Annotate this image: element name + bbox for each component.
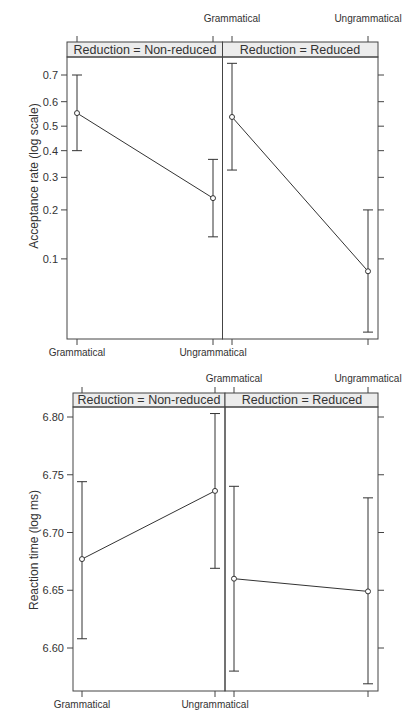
y-tick-label: 6.70 [43,527,64,539]
panel-frame [67,57,223,339]
data-point [366,269,371,274]
x-tick-label: Ungrammatical [334,373,401,384]
y-tick-label: 0.2 [43,204,58,216]
y-tick-label: 0.7 [43,69,58,81]
series-line [77,113,213,198]
x-tick-label: Grammatical [206,373,263,384]
y-axis-label: Reaction time (log ms) [27,490,41,610]
panel-frame [225,407,378,691]
y-tick-label: 0.5 [43,120,58,132]
x-tick-label: Ungrammatical [334,13,401,24]
y-tick-label: 6.75 [43,469,64,481]
x-tick-label: Grammatical [54,699,111,710]
x-tick-label: Grammatical [49,347,106,358]
data-point [230,114,235,119]
panel-frame [73,407,225,691]
data-point [366,589,371,594]
y-axis-label: Acceptance rate (log scale) [27,103,41,248]
figure: Acceptance rate (log scale) Reduction = … [0,0,419,728]
data-point [75,111,80,116]
y-tick-label: 6.60 [43,642,64,654]
series-line [232,117,368,271]
panel-strip-label: Reduction = Reduced [242,393,363,407]
y-tick-label: 6.80 [43,411,64,423]
panel-strip-label: Reduction = Non-reduced [78,393,221,407]
x-tick-label: Grammatical [204,13,261,24]
y-tick-label: 0.1 [43,253,58,265]
acceptance-rate-chart: Acceptance rate (log scale) Reduction = … [27,13,402,358]
series-line [82,491,215,559]
data-point [213,488,218,493]
x-tick-label: Ungrammatical [181,699,248,710]
series-line [234,579,368,592]
y-tick-label: 6.65 [43,584,64,596]
y-tick-label: 0.4 [43,145,58,157]
panel-strip-label: Reduction = Reduced [240,43,361,57]
reaction-time-chart: Reaction time (log ms) Reduction = Non-r… [27,373,402,710]
data-point [232,576,237,581]
y-tick-label: 0.6 [43,96,58,108]
x-tick-label: Ungrammatical [179,347,246,358]
data-point [211,196,216,201]
panel-strip-label: Reduction = Non-reduced [74,43,217,57]
y-tick-label: 0.3 [43,171,58,183]
data-point [80,557,85,562]
panel-frame [223,57,379,339]
